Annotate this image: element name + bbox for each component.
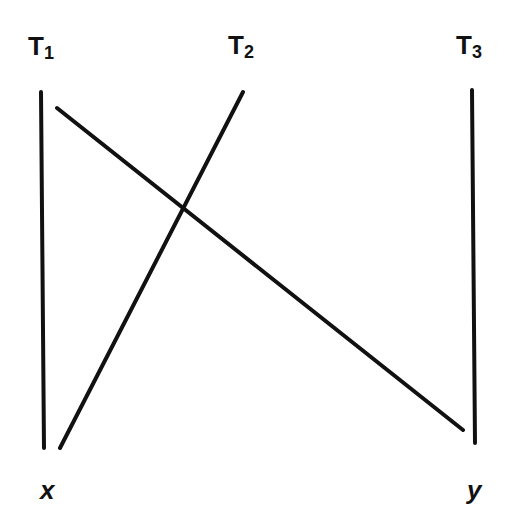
line-T3-axis [472, 90, 475, 443]
label-y: y [467, 477, 481, 503]
diagram-lines [0, 0, 512, 531]
line-T2-to-x [60, 92, 243, 448]
label-x: x [40, 477, 54, 503]
line-T1-to-y [57, 108, 463, 430]
line-T1-axis [41, 92, 44, 448]
